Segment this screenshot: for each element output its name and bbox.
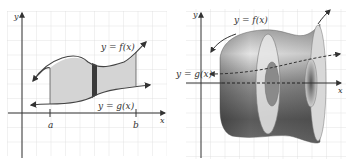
representative-strip [92,63,97,98]
figure: y x y = f(x) y = g(x) a b y x y = f(x) [0,0,350,166]
f-label: y = f(x) [233,15,268,25]
x-axis-label: x [160,116,165,125]
g-label: y = g(x) [97,101,135,111]
b-label: b [133,120,139,130]
f-label: y = f(x) [100,42,135,52]
x-axis-label: x [338,86,343,95]
y-axis-label: y [13,12,19,21]
g-label: y = g(x) [175,69,213,79]
right-panel: y x y = f(x) y = g(x) [175,9,346,159]
left-panel: y x y = f(x) y = g(x) a b [7,11,167,158]
a-label: a [48,120,53,130]
y-axis-label: y [192,10,198,19]
